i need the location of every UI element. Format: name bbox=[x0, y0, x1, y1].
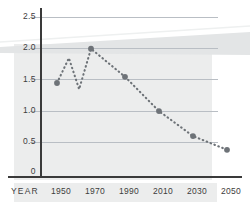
x-tick-label-1990: 1990 bbox=[119, 186, 139, 196]
data-point-marker bbox=[88, 46, 94, 52]
chart-container: 2.5 2.0 1.5 1.0 0.5 0 YEAR 1950 1970 199… bbox=[0, 0, 250, 206]
x-tick-label-1950: 1950 bbox=[51, 186, 71, 196]
x-tick-label-2050: 2050 bbox=[221, 186, 241, 196]
data-point-marker bbox=[224, 147, 230, 153]
data-point-marker bbox=[122, 74, 128, 80]
data-point-marker bbox=[190, 133, 196, 139]
series-plot bbox=[0, 0, 250, 206]
x-tick-label-1970: 1970 bbox=[85, 186, 105, 196]
x-tick-label-2030: 2030 bbox=[187, 186, 207, 196]
data-point-marker bbox=[156, 108, 162, 114]
x-axis-title: YEAR bbox=[11, 186, 39, 196]
data-point-marker bbox=[54, 80, 60, 86]
x-tick-label-2010: 2010 bbox=[153, 186, 173, 196]
series-line bbox=[57, 49, 227, 150]
